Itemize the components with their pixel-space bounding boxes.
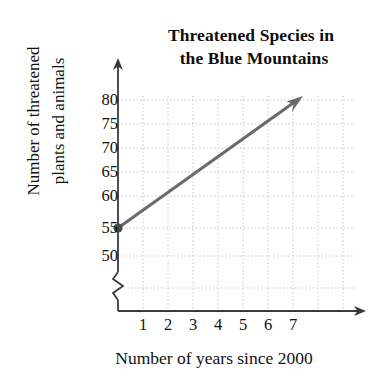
y-tick-label-55: 55	[88, 220, 118, 237]
series-end-arrowhead	[287, 96, 304, 112]
y-tick-label-80: 80	[88, 92, 118, 109]
x-tick-label-3: 3	[184, 317, 202, 334]
y-tick-label-50: 50	[88, 248, 118, 265]
y-tick-label-60: 60	[88, 188, 118, 205]
x-tick-label-5: 5	[234, 317, 252, 334]
x-tick-label-4: 4	[209, 317, 227, 334]
y-tick-label-75: 75	[88, 116, 118, 133]
grid-horizontal-lines	[118, 100, 355, 288]
chart-figure: Threatened Species in the Blue Mountains…	[0, 0, 382, 378]
y-tick-label-70: 70	[88, 140, 118, 157]
grid-vertical-lines	[143, 96, 343, 311]
data-series-line	[113, 96, 303, 233]
x-tick-label-1: 1	[134, 317, 152, 334]
x-tick-label-7: 7	[284, 317, 302, 334]
y-axis-break-zigzag	[113, 272, 123, 311]
x-tick-label-6: 6	[259, 317, 277, 334]
y-tick-label-65: 65	[88, 164, 118, 181]
x-tick-label-2: 2	[159, 317, 177, 334]
